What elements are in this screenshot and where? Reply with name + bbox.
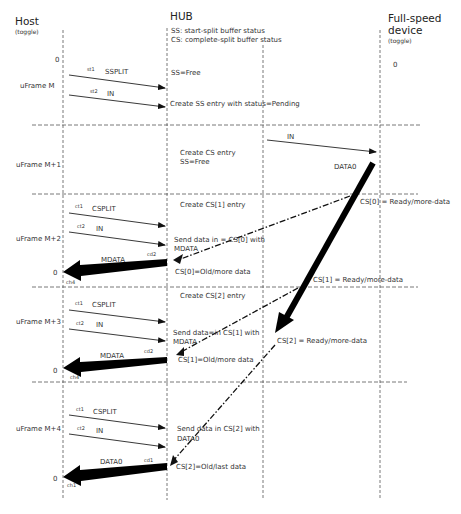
hub-note-send-cs1-l2: MDATA — [173, 338, 197, 346]
message-tag: ct1 — [75, 300, 83, 306]
hub-note-cs1-old: CS[1]=Old/more data — [178, 356, 254, 364]
cs1-ready-status: CS[1] = Ready/more-data — [313, 276, 403, 284]
hub-note-ss-free-2: SS=Free — [180, 158, 210, 166]
message-label: CSPLIT — [92, 205, 117, 213]
message-tag: cd2 — [144, 348, 153, 354]
split-transaction-diagram: Host (toggle) HUB SS: start-split buffer… — [0, 0, 461, 514]
message-m3-csplit: ct1 CSPLIT — [69, 300, 165, 322]
message-ssplit-in: st2 IN — [69, 88, 165, 107]
frame-label-m3: uFrame M+3 — [16, 318, 61, 326]
host-tag: ch4 — [66, 279, 75, 285]
hub-note-create-ss: Create SS entry with status=Pending — [170, 100, 300, 108]
host-initial-toggle: 0 — [55, 56, 59, 64]
frame-label-m: uFrame M — [20, 82, 55, 90]
message-ssplit: st1 SSPLIT — [69, 66, 165, 88]
message-m2-in: ct2 IN — [69, 223, 165, 245]
message-tag: ct1 — [76, 406, 84, 412]
message-tag: ct1 — [75, 203, 83, 209]
hub-note-cs0-old: CS[0]=Old/more data — [175, 268, 251, 276]
host-toggle-m4: 0 — [53, 475, 57, 483]
message-tag: ct2 — [76, 320, 84, 326]
hub-note-create-cs1: Create CS[1] entry — [180, 201, 245, 209]
host-toggle-m2: 0 — [53, 269, 57, 277]
message-tag: ct2 — [77, 425, 85, 431]
message-label: IN — [287, 133, 294, 141]
host-header: Host (toggle) — [15, 15, 39, 36]
message-label: DATA0 — [100, 458, 123, 466]
device-subtitle: (toggle) — [388, 37, 412, 45]
message-label: MDATA — [100, 352, 124, 360]
device-initial-toggle: 0 — [393, 61, 397, 69]
hub-header: HUB SS: start-split buffer status CS: co… — [170, 10, 282, 44]
hub-legend-cs: CS: complete-split buffer status — [171, 36, 282, 44]
message-label: IN — [96, 225, 103, 233]
hub-note-send-cs0-l2: MDATA — [174, 245, 198, 253]
hub-legend-ss: SS: start-split buffer status — [171, 27, 265, 35]
host-title: Host — [15, 15, 39, 27]
device-title-line2: device — [388, 24, 423, 36]
message-label: MDATA — [101, 256, 125, 264]
frame-label-m2: uFrame M+2 — [16, 235, 61, 243]
hub-note-cs2-old: CS[2]=Old/last data — [176, 463, 246, 471]
message-label: IN — [96, 427, 103, 435]
device-title-line1: Full-speed — [388, 12, 441, 24]
host-tag: ch1 — [67, 482, 76, 488]
message-label: CSPLIT — [92, 301, 117, 309]
message-device-in: IN — [267, 133, 376, 152]
cs0-ready-status: CS[0] = Ready/more-data — [360, 198, 450, 206]
hub-note-create-cs: Create CS entry — [180, 149, 236, 157]
message-m4-data0: DATA0 cd1 ch1 — [63, 457, 167, 488]
host-tag: ch4 — [70, 374, 79, 380]
host-toggle-m3: 0 — [53, 367, 57, 375]
cs2-ready-status: CS[2] = Ready/more-data — [277, 337, 367, 345]
message-tag: st1 — [87, 66, 95, 72]
message-label: IN — [107, 90, 114, 98]
hub-title: HUB — [170, 10, 193, 22]
message-tag: st2 — [90, 88, 98, 94]
message-tag: cd1 — [144, 457, 153, 463]
message-tag: ct2 — [77, 223, 85, 229]
device-data-arrow — [275, 163, 373, 333]
frame-label-m4: uFrame M+4 — [16, 425, 61, 433]
message-tag: cd2 — [147, 251, 156, 257]
message-label: SSPLIT — [105, 68, 129, 76]
message-m4-in: ct2 IN — [69, 425, 165, 447]
hub-note-ss-free: SS=Free — [171, 69, 201, 77]
message-m3-in: ct2 IN — [69, 320, 165, 341]
host-subtitle: (toggle) — [15, 28, 39, 36]
message-m3-mdata: MDATA cd2 ch4 — [63, 348, 167, 380]
hub-note-send-cs1-l1: Send data=in CS[1] with — [173, 329, 259, 337]
frame-label-m1: uFrame M+1 — [16, 161, 61, 169]
hub-note-send-cs2-l1: Send data in CS[2] with — [177, 425, 260, 433]
message-m2-mdata: MDATA cd2 ch4 — [63, 251, 167, 285]
hub-note-send-cs0-l1: Send data in = CS[0] with — [174, 236, 265, 244]
message-label: IN — [96, 321, 103, 329]
hub-note-send-cs2-l2: DATA0 — [177, 435, 200, 443]
device-header: Full-speed device (toggle) 0 — [388, 12, 441, 69]
device-data0-label: DATA0 — [334, 163, 357, 171]
message-label: CSPLIT — [93, 408, 118, 416]
hub-note-create-cs2: Create CS[2] entry — [180, 292, 245, 300]
